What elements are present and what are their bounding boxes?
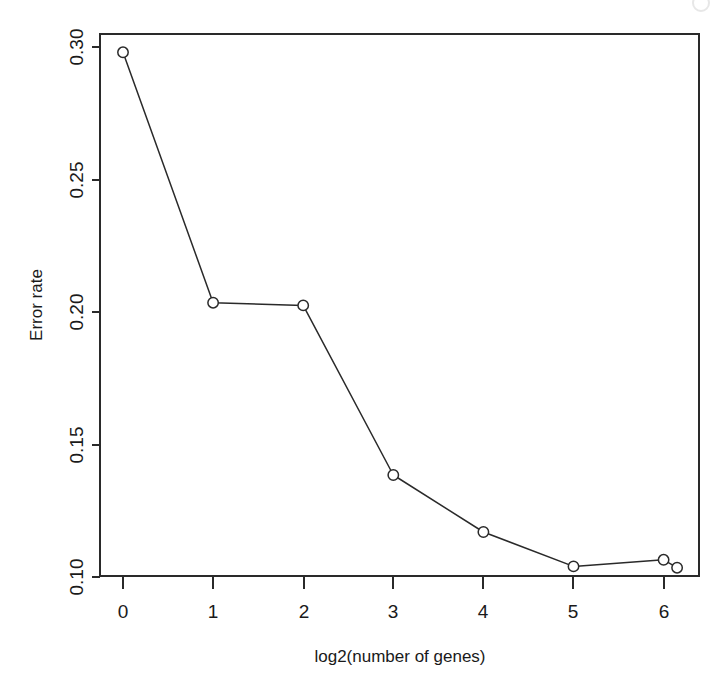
y-tick-label-2: 0.15: [66, 427, 87, 464]
series-line-error-rate: [123, 52, 677, 567]
data-point: [388, 470, 398, 480]
line-chart: 0.30 0.25 0.20 0.15 0.10 Error rate 0 1 …: [0, 0, 722, 683]
plot-box-frame: [100, 34, 699, 576]
series-markers: [118, 47, 683, 573]
data-point: [208, 298, 218, 308]
x-tick-label-4: 4: [478, 601, 489, 622]
x-tick-label-2: 2: [299, 601, 310, 622]
x-tick-label-5: 5: [568, 601, 579, 622]
x-axis-tick-labels: 0 1 2 3 4 5 6: [118, 601, 670, 622]
data-point: [298, 300, 308, 310]
x-tick-label-0: 0: [118, 601, 129, 622]
y-axis-tick-labels: 0.30 0.25 0.20 0.15 0.10: [66, 29, 87, 596]
x-tick-label-1: 1: [208, 601, 219, 622]
y-tick-label-5: 0.30: [66, 29, 87, 66]
data-point: [478, 527, 488, 537]
x-tick-label-3: 3: [388, 601, 399, 622]
y-axis-ticks: [92, 47, 100, 577]
y-tick-label-3: 0.20: [66, 294, 87, 331]
data-point: [672, 563, 682, 573]
data-point: [658, 555, 668, 565]
data-point: [118, 47, 128, 57]
y-axis-title: Error rate: [27, 269, 46, 341]
y-tick-label-4: 0.25: [66, 162, 87, 199]
x-axis-ticks: [123, 576, 664, 589]
x-axis-title: log2(number of genes): [314, 647, 485, 666]
y-tick-label-1: 0.10: [66, 559, 87, 596]
chart-figure: 0.30 0.25 0.20 0.15 0.10 Error rate 0 1 …: [0, 0, 722, 683]
x-tick-label-6: 6: [659, 601, 670, 622]
data-point: [568, 561, 578, 571]
